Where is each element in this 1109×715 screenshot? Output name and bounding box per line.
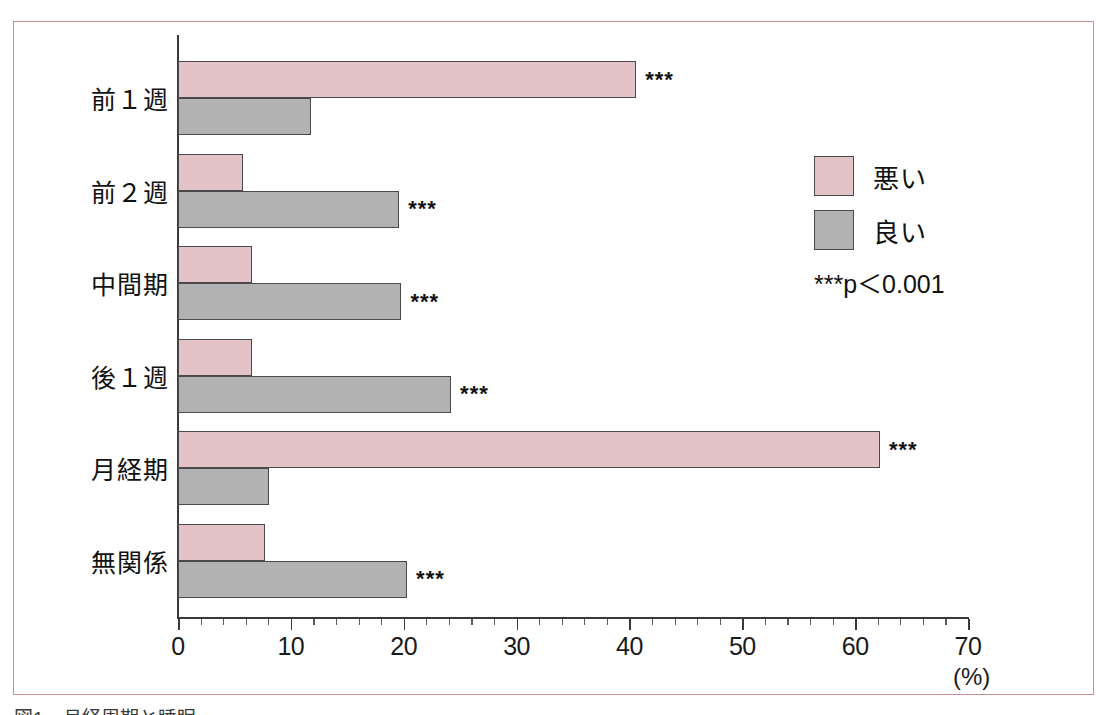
bar-good [178,191,399,228]
x-tick-major [968,619,970,630]
x-tick-minor [494,619,495,625]
bar-bad [178,339,252,376]
x-tick-major [742,619,744,630]
x-tick-minor [900,619,901,625]
significance-marker: *** [645,67,674,93]
x-tick-label: 70 [955,632,982,661]
figure-root: 010203040506070 ****************** 前１週前２… [0,0,1109,715]
bar-bad [178,431,880,468]
bar-good [178,561,407,598]
x-tick-label: 0 [171,632,184,661]
legend-label-good: 良い [873,212,927,249]
x-tick-minor [878,619,879,625]
x-tick-minor [449,619,450,625]
bar-good [178,376,451,413]
legend-swatch-good [814,210,854,250]
category-label: 中間期 [14,265,169,301]
x-tick-minor [268,619,269,625]
x-tick-minor [562,619,563,625]
x-tick-major [517,619,519,630]
significance-marker: *** [889,437,918,463]
x-tick-minor [697,619,698,625]
x-tick-minor [833,619,834,625]
x-tick-major [404,619,406,630]
x-tick-label: 50 [729,632,756,661]
x-tick-minor [607,619,608,625]
x-tick-minor [223,619,224,625]
figure-caption: 図1 月経周期と睡眠 [14,703,196,715]
x-tick-major [291,619,293,630]
x-tick-minor [675,619,676,625]
bar-good [178,283,401,320]
category-label: 前１週 [14,80,169,116]
x-tick-minor [584,619,585,625]
legend-item-bad: 悪い [814,156,945,196]
bar-good [178,468,269,505]
x-tick-major [178,619,180,630]
x-tick-minor [359,619,360,625]
legend: 悪い 良い ***p＜0.001 [814,156,945,300]
x-tick-minor [246,619,247,625]
x-tick-label: 10 [277,632,304,661]
x-tick-minor [539,619,540,625]
x-tick-label: 20 [390,632,417,661]
legend-pvalue-note: ***p＜0.001 [814,264,945,300]
x-tick-minor [720,619,721,625]
bar-bad [178,524,265,561]
category-label: 前２週 [14,173,169,209]
x-tick-minor [336,619,337,625]
x-tick-minor [426,619,427,625]
x-tick-minor [471,619,472,625]
legend-item-good: 良い [814,210,945,250]
bar-good [178,98,311,135]
x-tick-minor [313,619,314,625]
x-tick-minor [810,619,811,625]
category-label: 後１週 [14,358,169,394]
x-tick-label: 30 [503,632,530,661]
legend-swatch-bad [814,156,854,196]
significance-marker: *** [408,196,437,222]
category-label: 月経期 [14,450,169,486]
x-tick-minor [652,619,653,625]
category-label: 無関係 [14,543,169,579]
significance-marker: *** [416,566,445,592]
bar-bad [178,246,252,283]
legend-label-bad: 悪い [873,158,927,195]
x-tick-major [855,619,857,630]
x-tick-minor [945,619,946,625]
x-tick-minor [381,619,382,625]
x-axis-unit-label: (%) [953,663,990,691]
x-axis-line [177,617,969,619]
x-tick-label: 40 [616,632,643,661]
x-tick-minor [787,619,788,625]
bar-bad [178,61,636,98]
x-tick-major [629,619,631,630]
plot-area: 010203040506070 ****************** 前１週前２… [14,22,1095,696]
x-tick-minor [201,619,202,625]
x-tick-label: 60 [842,632,869,661]
x-tick-minor [923,619,924,625]
significance-marker: *** [460,381,489,407]
chart-frame: 010203040506070 ****************** 前１週前２… [13,21,1094,695]
bar-bad [178,154,243,191]
significance-marker: *** [410,289,439,315]
x-tick-minor [765,619,766,625]
